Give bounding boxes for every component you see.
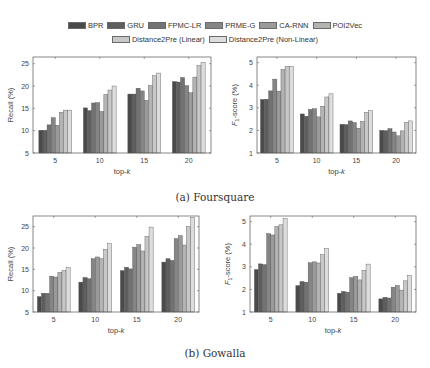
bar	[304, 282, 308, 312]
bar	[62, 271, 66, 312]
bar	[201, 62, 205, 153]
y-tick-label: 20	[21, 83, 29, 90]
legend-item-ca-rnn: CA-RNN	[259, 21, 308, 30]
bar	[129, 269, 133, 312]
bar	[325, 97, 329, 153]
y-tick-label: 1	[242, 309, 246, 316]
x-axis-label: top-k	[328, 167, 346, 176]
bar	[47, 125, 51, 153]
legend-item-gru: GRU	[107, 21, 144, 30]
x-tick-label: 15	[133, 316, 141, 323]
bar	[408, 121, 412, 153]
bar	[275, 227, 279, 312]
bar	[396, 136, 400, 153]
bar	[141, 251, 145, 312]
bar	[387, 298, 391, 312]
bar	[340, 124, 344, 153]
bar	[260, 99, 264, 153]
legend-label: Distance2Pre (Linear)	[132, 35, 205, 44]
bar	[124, 267, 128, 312]
y-tick-label: 10	[21, 127, 29, 134]
bar	[254, 270, 258, 312]
bar	[145, 236, 149, 312]
legend-swatch	[259, 22, 277, 29]
bar	[403, 281, 407, 312]
y-axis-label: Recall (%)	[6, 246, 15, 281]
y-tick-label: 15	[21, 266, 29, 273]
bar	[271, 235, 275, 312]
bar	[83, 277, 87, 312]
gowalla-f1-chart: 123455101520top-kF1-score (%)	[215, 212, 430, 344]
legend-label: POI2Vec	[333, 21, 363, 30]
legend-label: PRME-G	[225, 21, 255, 30]
bar	[346, 292, 350, 312]
bar	[352, 123, 356, 153]
y-tick-label: 25	[21, 223, 29, 230]
bar	[281, 69, 285, 153]
bar	[391, 287, 395, 312]
bar	[46, 293, 50, 312]
bar	[92, 103, 96, 153]
y-axis-label: F1-score (%)	[230, 84, 240, 126]
legend-swatch	[112, 36, 130, 43]
bar	[50, 276, 54, 312]
bar	[96, 103, 100, 153]
bar	[267, 234, 271, 312]
bar	[178, 236, 182, 312]
legend-label: GRU	[127, 21, 144, 30]
bar	[108, 244, 112, 312]
bar	[144, 100, 148, 153]
bar	[172, 82, 176, 153]
bar	[337, 293, 341, 312]
x-axis-label: top-k	[108, 326, 126, 335]
y-tick-label: 5	[25, 150, 29, 157]
bar	[279, 225, 283, 312]
bar	[283, 219, 287, 312]
bar	[399, 290, 403, 312]
y-tick-label: 25	[21, 60, 29, 67]
bar	[152, 76, 156, 153]
x-tick-label: 20	[185, 157, 193, 164]
bar	[59, 112, 63, 153]
bar	[174, 239, 178, 312]
bar	[360, 121, 364, 153]
y-tick-label: 4	[242, 241, 246, 248]
bar	[87, 111, 91, 153]
bar	[55, 125, 59, 153]
bar	[313, 109, 317, 153]
bar	[265, 99, 269, 153]
x-tick-label: 5	[269, 316, 273, 323]
legend-label: Distance2Pre (Non-Linear)	[229, 35, 318, 44]
bar	[380, 130, 384, 153]
bar	[329, 94, 333, 153]
gowalla-recall-chart: 5101520255101520top-kRecall (%)	[0, 212, 215, 344]
bar	[41, 293, 45, 312]
y-tick-label: 5	[242, 218, 246, 225]
bar	[170, 260, 174, 312]
bar	[181, 78, 185, 153]
x-tick-label: 10	[96, 157, 104, 164]
bar	[369, 111, 373, 153]
bar	[325, 249, 329, 312]
x-tick-label: 15	[140, 157, 148, 164]
bar	[95, 257, 99, 312]
x-tick-label: 10	[313, 157, 321, 164]
bar	[148, 86, 152, 153]
bar	[83, 108, 87, 153]
bar	[112, 86, 116, 153]
bar	[300, 114, 304, 153]
bar	[408, 275, 412, 312]
bar	[37, 297, 41, 312]
bar	[350, 278, 354, 312]
foursquare-f1-chart: 123455101520top-kF1-score (%)	[215, 52, 430, 184]
bar	[384, 131, 388, 153]
bar	[108, 90, 112, 153]
bar	[296, 286, 300, 312]
bar	[43, 130, 47, 153]
bar	[273, 79, 277, 153]
bar	[308, 109, 312, 153]
bar	[388, 129, 392, 153]
x-tick-label: 20	[174, 316, 182, 323]
x-tick-label: 5	[53, 157, 57, 164]
bar	[176, 82, 180, 153]
